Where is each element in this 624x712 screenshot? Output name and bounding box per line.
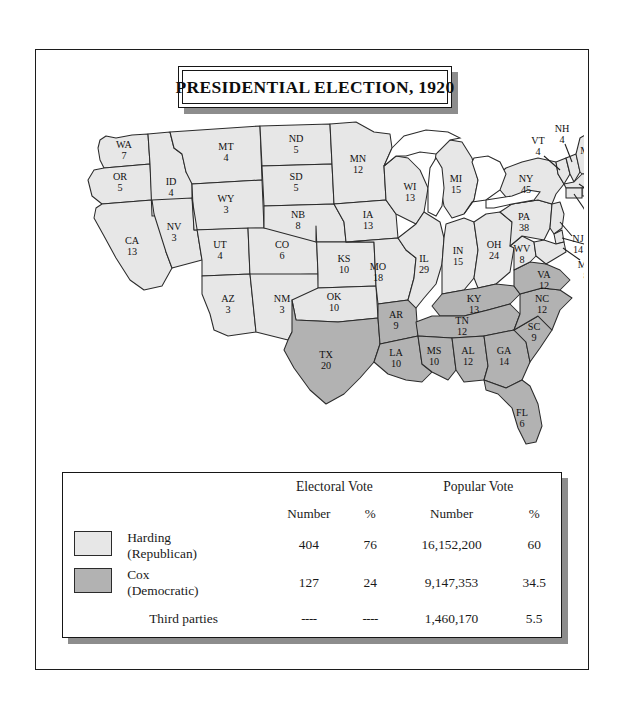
spacer-cell bbox=[63, 501, 123, 526]
label-KS-votes: 10 bbox=[339, 264, 349, 275]
harding-pv-pct: 60 bbox=[507, 526, 561, 564]
candidate-name-harding: Harding bbox=[127, 530, 171, 545]
label-WY-code: WY bbox=[218, 193, 236, 204]
label-NC-code: NC bbox=[535, 293, 549, 304]
label-NB-code: NB bbox=[291, 209, 305, 220]
label-ID-code: ID bbox=[166, 176, 177, 187]
label-FL-votes: 6 bbox=[519, 418, 524, 429]
harding-ev-number: 404 bbox=[273, 526, 345, 564]
label-IN-votes: 15 bbox=[453, 256, 463, 267]
label-ND-votes: 5 bbox=[293, 144, 298, 155]
label-OH-code: OH bbox=[487, 239, 502, 250]
title-banner-outer-border: PRESIDENTIAL ELECTION, 1920 bbox=[178, 66, 452, 108]
label-TX-votes: 20 bbox=[321, 360, 331, 371]
label-ND-code: ND bbox=[289, 133, 304, 144]
label-SD-votes: 5 bbox=[293, 182, 298, 193]
label-MO-code: MO bbox=[370, 261, 386, 272]
label-OR-code: OR bbox=[113, 171, 127, 182]
label-IL-code: IL bbox=[419, 253, 429, 264]
table-row: Harding (Republican) 404 76 16,152,200 6… bbox=[63, 526, 561, 564]
label-KY-code: KY bbox=[467, 293, 482, 304]
label-WA-code: WA bbox=[116, 139, 132, 150]
party-name-harding: (Republican) bbox=[127, 546, 273, 561]
cox-pv-pct: 34.5 bbox=[507, 564, 561, 602]
label-IL-votes: 29 bbox=[419, 264, 429, 275]
subheader-ev-pct: % bbox=[345, 501, 396, 526]
label-UT-votes: 4 bbox=[217, 250, 222, 261]
label-WA-votes: 7 bbox=[121, 150, 126, 161]
legend-swatch-cell-harding bbox=[63, 526, 123, 564]
label-PA-code: PA bbox=[518, 211, 531, 222]
label-NY-votes: 45 bbox=[521, 184, 531, 195]
third-parties-label: Third parties bbox=[123, 601, 273, 637]
state-NJ[interactable] bbox=[550, 202, 564, 234]
label-ME-code: ME bbox=[580, 145, 584, 156]
label-MD-votes: 8 bbox=[583, 270, 584, 281]
label-TN-votes: 12 bbox=[457, 326, 467, 337]
legend-swatch-cox bbox=[74, 568, 112, 593]
spacer-cell bbox=[123, 473, 273, 501]
label-MS-code: MS bbox=[427, 345, 442, 356]
label-NM-code: NM bbox=[274, 293, 290, 304]
label-TX-code: TX bbox=[319, 349, 333, 360]
state-CT[interactable] bbox=[566, 188, 582, 198]
spacer-cell bbox=[123, 501, 273, 526]
label-ID-votes: 4 bbox=[168, 187, 173, 198]
party-name-cox: (Democratic) bbox=[127, 583, 273, 598]
label-MI-votes: 15 bbox=[451, 184, 461, 195]
label-VA-code: VA bbox=[537, 269, 551, 280]
label-WV-votes: 8 bbox=[519, 254, 524, 265]
lake-michigan bbox=[428, 158, 444, 216]
spacer-cell bbox=[63, 473, 123, 501]
label-VA-votes: 12 bbox=[539, 280, 549, 291]
label-AR-votes: 9 bbox=[393, 320, 398, 331]
header-electoral-vote: Electoral Vote bbox=[273, 473, 396, 501]
label-NV-code: NV bbox=[167, 221, 182, 232]
legend-panel-box: Electoral Vote Popular Vote Number % Num… bbox=[62, 472, 562, 638]
label-GA-votes: 14 bbox=[499, 356, 509, 367]
label-WV-code: WV bbox=[514, 243, 532, 254]
label-OR-votes: 5 bbox=[117, 182, 122, 193]
legend-panel: Electoral Vote Popular Vote Number % Num… bbox=[62, 472, 562, 638]
label-NC-votes: 12 bbox=[537, 304, 547, 315]
subheader-pv-number: Number bbox=[396, 501, 508, 526]
leader-line-CT bbox=[574, 194, 584, 226]
harding-pv-number: 16,152,200 bbox=[396, 526, 508, 564]
title-banner-inner-border: PRESIDENTIAL ELECTION, 1920 bbox=[182, 70, 448, 104]
legend-party-cox: Cox (Democratic) bbox=[123, 564, 273, 602]
label-IN-code: IN bbox=[453, 245, 464, 256]
label-CO-votes: 6 bbox=[279, 250, 284, 261]
label-NH-code: NH bbox=[555, 123, 570, 134]
legend-swatch-cell-third bbox=[63, 601, 123, 637]
label-OK-code: OK bbox=[327, 291, 342, 302]
cox-pv-number: 9,147,353 bbox=[396, 564, 508, 602]
state-MD[interactable] bbox=[534, 240, 566, 264]
label-NJ-votes: 14 bbox=[573, 244, 583, 255]
legend-swatch-harding bbox=[74, 531, 112, 556]
header-popular-vote: Popular Vote bbox=[396, 473, 561, 501]
third-pv-pct: 5.5 bbox=[507, 601, 561, 637]
state-FL[interactable] bbox=[484, 380, 542, 444]
table-row: Cox (Democratic) 127 24 9,147,353 34.5 bbox=[63, 564, 561, 602]
label-AL-votes: 12 bbox=[463, 356, 473, 367]
third-pv-number: 1,460,170 bbox=[396, 601, 508, 637]
label-VT-code: VT bbox=[531, 135, 545, 146]
label-IA-votes: 13 bbox=[363, 220, 373, 231]
label-KY-votes: 13 bbox=[469, 304, 479, 315]
harding-ev-pct: 76 bbox=[345, 526, 396, 564]
label-OK-votes: 10 bbox=[329, 302, 339, 313]
label-PA-votes: 38 bbox=[519, 222, 529, 233]
label-WI-votes: 13 bbox=[405, 192, 415, 203]
label-LA-code: LA bbox=[389, 347, 403, 358]
page-title: PRESIDENTIAL ELECTION, 1920 bbox=[176, 77, 455, 98]
label-AL-code: AL bbox=[461, 345, 475, 356]
label-AZ-code: AZ bbox=[221, 293, 235, 304]
label-SC-code: SC bbox=[528, 321, 541, 332]
table-group-header-row: Electoral Vote Popular Vote bbox=[63, 473, 561, 501]
label-TN-code: TN bbox=[455, 315, 469, 326]
label-MN-code: MN bbox=[350, 153, 367, 164]
label-NV-votes: 3 bbox=[171, 232, 176, 243]
cox-ev-number: 127 bbox=[273, 564, 345, 602]
label-MT-code: MT bbox=[218, 141, 234, 152]
label-NB-votes: 8 bbox=[295, 220, 300, 231]
